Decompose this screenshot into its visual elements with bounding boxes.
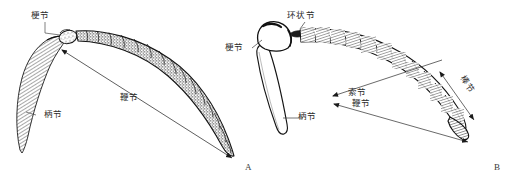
label-b-funicle: 索节 bbox=[348, 88, 367, 97]
label-b-annulus: 环状节 bbox=[287, 11, 315, 20]
antenna-line-art bbox=[0, 0, 512, 184]
label-a-scape: 柄节 bbox=[44, 110, 63, 119]
b-scape-shape bbox=[257, 44, 288, 134]
a-pedicel-leader-2 bbox=[45, 33, 60, 35]
a-flagellum-shape bbox=[76, 31, 234, 157]
b-pedicel-shape bbox=[258, 22, 292, 52]
label-a-flagellum: 鞭节 bbox=[120, 93, 139, 102]
label-b-flagellum: 鞭节 bbox=[352, 99, 371, 108]
antenna-figure: 梗节 柄节 鞭节 环状节 梗节 柄节 索节 鞭节 棒节 A B bbox=[0, 0, 512, 184]
panel-b-drawing bbox=[252, 22, 474, 142]
a-scape-shape bbox=[17, 36, 67, 153]
b-funicle-shape bbox=[300, 27, 466, 128]
caption-panel-b: B bbox=[494, 162, 500, 172]
caption-panel-a: A bbox=[245, 162, 252, 172]
panel-a-drawing bbox=[17, 22, 234, 158]
label-b-scape: 柄节 bbox=[298, 112, 317, 121]
label-a-pedicel: 梗节 bbox=[31, 11, 50, 20]
label-b-pedicel: 梗节 bbox=[225, 43, 244, 52]
